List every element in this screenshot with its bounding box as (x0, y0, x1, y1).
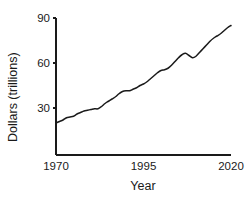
y-tick-label-60: 60 (37, 57, 50, 69)
y-axis-label: Dollars (trillions) (6, 52, 20, 142)
y-tick-label-30: 30 (37, 102, 50, 114)
y-tick-label-90: 90 (37, 12, 50, 24)
x-tick-label-1970: 1970 (43, 160, 69, 172)
x-tick-label-1995: 1995 (131, 160, 157, 172)
x-axis-label: Year (130, 179, 155, 193)
line-chart: Dollars (trillions) 90 60 30 1970 1995 2… (0, 0, 249, 197)
x-tick-label-2020: 2020 (218, 160, 244, 172)
chart-figure: Dollars (trillions) 90 60 30 1970 1995 2… (0, 0, 249, 197)
data-series-line (56, 26, 231, 124)
